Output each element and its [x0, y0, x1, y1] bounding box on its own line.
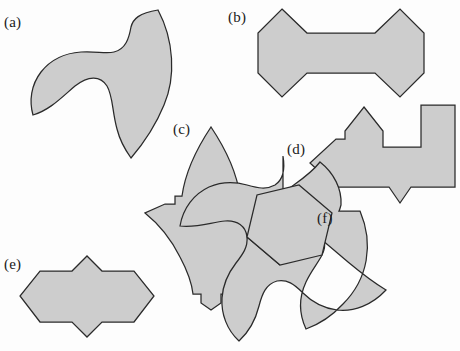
shape-e-elongated-hexagon-with-spikes — [20, 256, 154, 337]
panel-label-d: (d) — [287, 142, 305, 157]
panel-label-f: (f) — [317, 211, 333, 226]
panel-label-c: (c) — [173, 122, 190, 137]
shape-a-outline — [31, 10, 172, 158]
figure-canvas: (a) (b) (c) (d) (e) (f) — [0, 0, 460, 351]
shape-b-double-hexagon-polygon — [258, 9, 424, 97]
panel-label-e: (e) — [4, 257, 21, 272]
panel-label-a: (a) — [4, 15, 21, 30]
panel-label-b: (b) — [228, 10, 246, 25]
shapes-svg — [0, 0, 460, 351]
